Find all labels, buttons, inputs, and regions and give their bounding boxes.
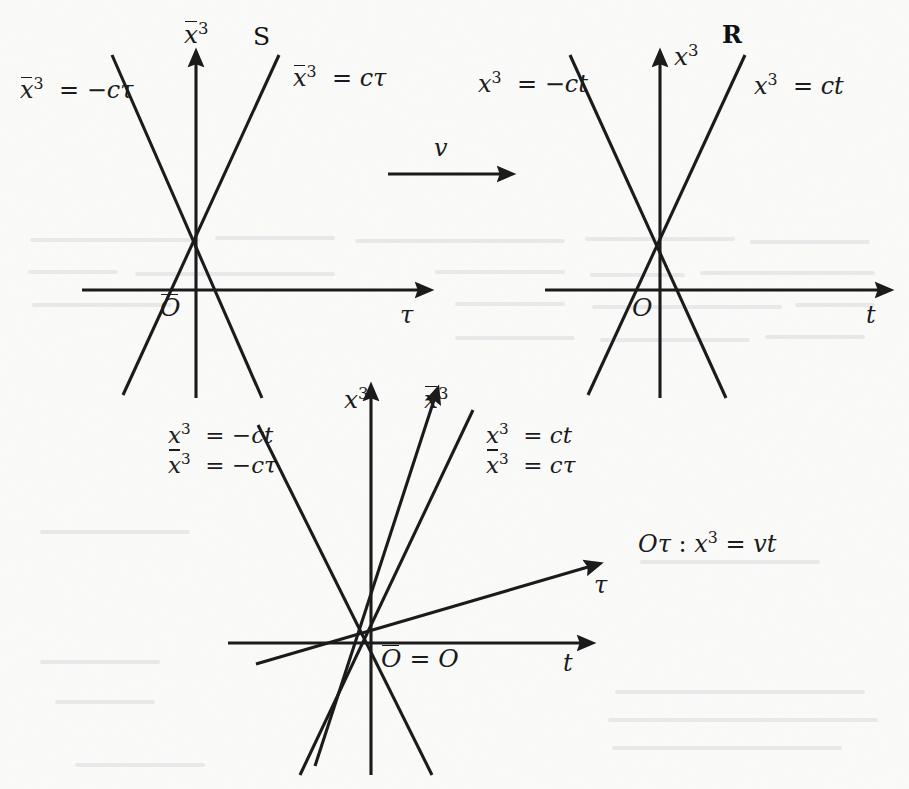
bottom-lightline-plus-label-line1: x3 = ct — [486, 420, 575, 450]
bottom-worldline-equation-label: Oτ : x3 = vt — [638, 530, 777, 557]
bottom-lightline-plus — [300, 410, 473, 775]
right-lightline-minus-label: x3 = −ct — [478, 70, 588, 97]
right-lightline-minus — [570, 55, 726, 398]
bottom-vertical-axis-label: x3 — [344, 385, 369, 414]
bottom-origin-label: O = O — [381, 646, 459, 672]
bottom-tilted-horizontal-axis-label: τ — [594, 573, 607, 598]
bottom-xbar3-axis — [315, 400, 434, 766]
right-vertical-axis-label: x3 — [674, 42, 699, 71]
bottom-lightline-plus-label: x3 = ct x3 = cτ — [486, 420, 575, 480]
bottom-lightline-minus-label-line1: x3 = −ct — [168, 420, 277, 450]
right-lightline-plus-label: x3 = ct — [754, 72, 844, 99]
left-lightline-minus-label: x3 = −cτ — [20, 76, 133, 103]
left-lightline-plus — [123, 55, 279, 395]
frame-label-R: R — [722, 22, 742, 47]
bottom-horizontal-axis-label: t — [563, 651, 573, 676]
left-origin-label: O — [160, 295, 181, 321]
left-vertical-axis-label: x3 — [184, 20, 209, 49]
bottom-panel-light-cone — [258, 410, 473, 775]
bottom-lightline-minus-label-line2: x3 = −cτ — [168, 450, 277, 480]
right-horizontal-axis-label: t — [866, 303, 876, 328]
bottom-lightline-minus — [258, 425, 432, 775]
figure-page: S x3 x3 = −cτ x3 = cτ O τ v R x3 x3 = −c… — [0, 0, 909, 789]
left-lightline-plus-label: x3 = cτ — [293, 64, 386, 91]
right-panel-light-cone — [570, 55, 745, 398]
left-panel-axes — [82, 64, 418, 398]
right-panel-axes — [545, 64, 878, 398]
frame-label-S: S — [253, 24, 270, 50]
right-origin-label: O — [632, 295, 653, 321]
bottom-lightline-plus-label-line2: x3 = cτ — [486, 450, 575, 480]
bottom-tilted-vertical-axis-label: x3 — [424, 385, 449, 414]
bottom-lightline-minus-label: x3 = −ct x3 = −cτ — [168, 420, 277, 480]
boost-velocity-label: v — [434, 136, 448, 161]
right-lightline-plus — [588, 55, 745, 395]
left-horizontal-axis-label: τ — [400, 303, 413, 328]
left-lightline-minus — [112, 55, 262, 398]
